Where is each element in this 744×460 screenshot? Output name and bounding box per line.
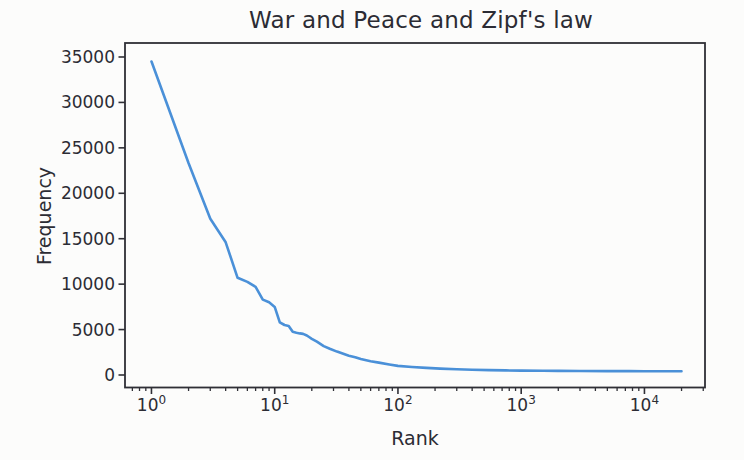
x-tick-label: 103	[507, 393, 536, 415]
y-tick-label: 15000	[61, 229, 115, 249]
y-tick-label: 10000	[61, 274, 115, 294]
zipf-frequency-line	[152, 62, 682, 372]
y-tick-label: 20000	[61, 183, 115, 203]
plot-border	[125, 43, 705, 388]
x-tick-label: 100	[137, 393, 166, 415]
y-tick-label: 0	[104, 365, 115, 385]
x-tick-label: 104	[630, 393, 659, 415]
y-tick-label: 5000	[72, 320, 115, 340]
y-tick-label: 35000	[61, 47, 115, 67]
y-tick-label: 25000	[61, 138, 115, 158]
zipf-figure: War and Peace and Zipf's law Frequency 0…	[0, 0, 744, 460]
chart-canvas: 0500010000150002000025000300003500010010…	[0, 0, 744, 460]
y-tick-label: 30000	[61, 92, 115, 112]
x-tick-label: 102	[383, 393, 412, 415]
x-tick-label: 101	[260, 393, 289, 415]
x-axis-label: Rank	[125, 427, 705, 449]
